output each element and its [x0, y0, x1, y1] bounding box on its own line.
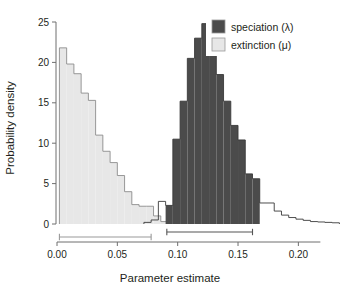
histogram-bar [125, 192, 132, 224]
histogram-bar [139, 206, 146, 224]
histogram-bar [96, 135, 103, 224]
histogram-bar [173, 139, 180, 224]
y-axis-title: Probability density [4, 81, 16, 175]
legend: speciation (λ) extinction (μ) [206, 16, 337, 56]
histogram-bar [180, 101, 187, 224]
histogram-bar [195, 38, 202, 224]
legend-label-extinction: extinction (μ) [231, 39, 291, 51]
histogram-bar [81, 93, 88, 224]
histogram-bar [166, 205, 173, 224]
histogram-bar [245, 174, 252, 224]
histogram-bar [132, 205, 139, 224]
y-tick-label: 25 [38, 17, 50, 28]
histogram-figure: 0.000.050.100.150.200510152025 Parameter… [0, 0, 341, 290]
x-axis-title: Parameter estimate [120, 272, 220, 284]
x-tick-label: 0.10 [168, 249, 188, 260]
histogram-bar [146, 206, 153, 224]
histogram-bar [117, 176, 124, 224]
histogram-bar [231, 125, 238, 224]
histogram-bar [74, 74, 81, 224]
y-tick-label: 20 [38, 57, 50, 68]
histogram-bar [216, 75, 223, 224]
legend-label-speciation: speciation (λ) [231, 21, 293, 33]
x-tick-label: 0.20 [289, 249, 309, 260]
histogram-bar [67, 64, 74, 224]
y-tick-label: 15 [38, 97, 50, 108]
y-tick-label: 5 [43, 178, 49, 189]
histogram-bar [110, 163, 117, 224]
legend-swatch-extinction [212, 38, 225, 51]
histogram-bar [253, 179, 260, 224]
x-tick-label: 0.00 [47, 249, 67, 260]
histogram-bar [187, 58, 194, 224]
probability-density-histogram: 0.000.050.100.150.200510152025 Parameter… [0, 0, 341, 290]
histogram-bar [88, 100, 95, 224]
legend-swatch-speciation [212, 20, 225, 33]
x-tick-label: 0.05 [108, 249, 128, 260]
histogram-bar [224, 101, 231, 224]
histogram-bar [209, 50, 216, 224]
y-tick-label: 0 [43, 219, 49, 230]
histogram-bar [103, 151, 110, 224]
y-tick-label: 10 [38, 138, 50, 149]
histogram-bar [59, 48, 66, 224]
histogram-bar [238, 140, 245, 224]
x-tick-label: 0.15 [228, 249, 248, 260]
